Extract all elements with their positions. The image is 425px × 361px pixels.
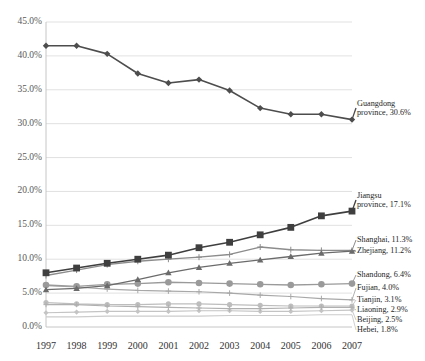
data-point [226, 280, 233, 287]
series-annotation-shanghai: Shanghai, 11.3% [357, 235, 412, 245]
x-axis-tick-label: 2007 [335, 340, 369, 351]
data-point [349, 280, 356, 287]
data-point [257, 231, 264, 238]
data-point [257, 105, 263, 111]
data-point [318, 281, 325, 288]
series-annotation-zhejiang: Zhejiang, 11.2% [357, 246, 411, 256]
y-axis-tick-label: 35.0% [0, 84, 42, 94]
data-point [74, 309, 79, 314]
data-point [165, 252, 172, 259]
data-point [196, 76, 202, 82]
data-point [165, 279, 172, 286]
series-annotation-shandong: Shandong, 6.4% [357, 270, 411, 280]
y-axis-tick-label: 20.0% [0, 185, 42, 195]
annotation-line-1: Fujian, 4.0% [357, 283, 399, 293]
annotation-leader-line-shanghai [352, 240, 356, 250]
series-annotation-jiangsu: Jiangsuprovince, 17.1% [357, 191, 411, 210]
data-point [134, 256, 141, 263]
x-axis-tick-label: 2004 [243, 340, 277, 351]
y-axis-tick-label: 0.0% [0, 321, 42, 331]
x-axis-tick-label: 1998 [60, 340, 94, 351]
annotation-line-1: Hebei, 1.8% [357, 325, 398, 335]
data-point [288, 247, 294, 253]
annotation-line-1: Guangdong [357, 99, 411, 108]
annotation-line-2: province, 17.1% [357, 200, 411, 209]
annotation-line-1: Beijing, 2.5% [357, 315, 402, 325]
data-point [43, 310, 48, 315]
data-point [288, 282, 295, 289]
chart-container: 0.0%5.0%10.0%15.0%20.0%25.0%30.0%35.0%40… [0, 0, 425, 361]
data-point [226, 87, 232, 93]
series-annotation-fujian: Fujian, 4.0% [357, 283, 399, 293]
annotation-leader-line-hebei [352, 315, 356, 330]
series-line [46, 247, 352, 275]
series-annotation-liaoning: Liaoning, 2.9% [357, 305, 408, 315]
series-line [46, 315, 352, 317]
x-axis-tick-label: 1997 [29, 340, 63, 351]
data-point [349, 116, 355, 122]
y-axis-tick-label: 30.0% [0, 118, 42, 128]
y-axis-tick-label: 15.0% [0, 219, 42, 229]
data-point [257, 244, 263, 250]
data-point [196, 244, 203, 251]
data-point [288, 111, 294, 117]
data-point [73, 265, 80, 272]
annotation-line-1: Tianjin, 3.1% [357, 295, 402, 305]
data-point [318, 212, 325, 219]
data-point [227, 251, 233, 257]
data-point [135, 309, 140, 314]
data-point [196, 289, 202, 295]
annotation-leader-line-guangdong [352, 108, 356, 120]
data-point [287, 224, 294, 231]
series-hebei [46, 315, 352, 317]
x-axis-tick-label: 2006 [304, 340, 338, 351]
x-axis-tick-label: 2003 [213, 340, 247, 351]
annotation-line-1: Shanghai, 11.3% [357, 235, 412, 245]
gridlines [46, 22, 352, 293]
y-axis-tick-label: 40.0% [0, 50, 42, 60]
data-point [318, 111, 324, 117]
data-point [43, 269, 50, 276]
x-axis-tick-label: 2000 [121, 340, 155, 351]
series-guangdong [43, 43, 355, 123]
y-axis-tick-label: 10.0% [0, 253, 42, 263]
data-point [105, 309, 110, 314]
annotation-leader-line-fujian [352, 288, 356, 300]
annotation-line-1: Liaoning, 2.9% [357, 305, 408, 315]
y-axis-tick-label: 25.0% [0, 152, 42, 162]
x-axis-tick-label: 2001 [151, 340, 185, 351]
series-annotation-tianjin: Tianjin, 3.1% [357, 295, 402, 305]
data-point [135, 288, 141, 294]
data-point [288, 294, 294, 300]
annotation-line-1: Shandong, 6.4% [357, 270, 411, 280]
annotation-line-1: Jiangsu [357, 191, 411, 200]
y-axis-tick-label: 45.0% [0, 16, 42, 26]
series-annotation-beijing: Beijing, 2.5% [357, 315, 402, 325]
data-point [196, 305, 201, 310]
annotation-line-2: province, 30.6% [357, 108, 411, 117]
data-point [257, 281, 264, 288]
data-point [73, 43, 79, 49]
x-axis-tick-label: 2002 [182, 340, 216, 351]
data-point [226, 239, 233, 246]
series-annotation-hebei: Hebei, 1.8% [357, 325, 398, 335]
data-point [227, 290, 233, 296]
annotation-line-1: Zhejiang, 11.2% [357, 246, 411, 256]
data-point [43, 43, 49, 49]
data-point [104, 260, 111, 267]
x-axis-tick-label: 1999 [90, 340, 124, 351]
y-axis-tick-label: 5.0% [0, 287, 42, 297]
x-axis-tick-label: 2005 [274, 340, 308, 351]
series-annotation-guangdong: Guangdongprovince, 30.6% [357, 99, 411, 118]
data-point [319, 296, 325, 302]
data-point [196, 280, 203, 287]
data-point [165, 80, 171, 86]
series-line [46, 211, 352, 273]
